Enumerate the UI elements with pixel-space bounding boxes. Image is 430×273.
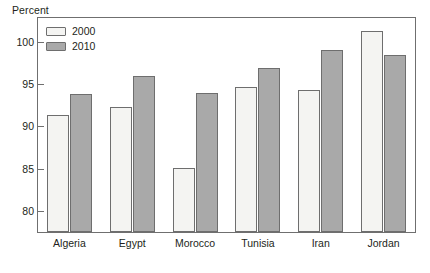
bar-iran-2000 <box>298 90 320 232</box>
x-axis-label-iran: Iran <box>312 237 330 249</box>
bar-tunisia-2010 <box>258 68 280 232</box>
x-axis-label-tunisia: Tunisia <box>241 237 274 249</box>
x-axis-label-algeria: Algeria <box>53 237 86 249</box>
bar-egypt-2010 <box>133 76 155 232</box>
bar-chart: Percent 80859095100 AlgeriaEgyptMoroccoT… <box>0 0 430 273</box>
bar-jordan-2000 <box>361 31 383 232</box>
bar-algeria-2000 <box>47 115 69 232</box>
chart-legend: 20002010 <box>46 25 95 52</box>
bar-egypt-2000 <box>110 107 132 232</box>
y-axis-tick-label: 100 <box>0 36 34 48</box>
x-axis-label-morocco: Morocco <box>175 237 215 249</box>
bar-iran-2010 <box>321 50 343 232</box>
legend-label-2010: 2010 <box>72 41 95 52</box>
y-axis-tick-label: 90 <box>0 120 34 132</box>
bar-algeria-2010 <box>70 94 92 232</box>
x-axis-label-jordan: Jordan <box>368 237 400 249</box>
y-axis-title: Percent <box>12 4 49 16</box>
y-axis-tick-label: 85 <box>0 163 34 175</box>
legend-swatch-2000 <box>46 27 66 36</box>
legend-swatch-2010 <box>46 42 66 51</box>
legend-label-2000: 2000 <box>72 26 95 37</box>
bar-morocco-2010 <box>196 93 218 232</box>
legend-item-2010: 2010 <box>46 40 95 52</box>
x-axis-label-egypt: Egypt <box>119 237 146 249</box>
legend-item-2000: 2000 <box>46 25 95 37</box>
y-axis-tick-label: 80 <box>0 205 34 217</box>
bar-tunisia-2000 <box>235 87 257 232</box>
bar-jordan-2010 <box>384 55 406 232</box>
bar-morocco-2000 <box>173 168 195 232</box>
y-axis-tick-label: 95 <box>0 78 34 90</box>
